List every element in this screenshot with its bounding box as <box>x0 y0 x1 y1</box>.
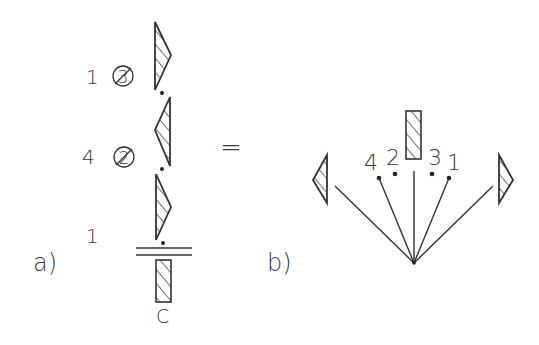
ray-fan <box>335 171 493 263</box>
prism-triangle-left <box>313 155 327 203</box>
circled-number-2: 2 <box>119 148 130 168</box>
prism-triangle-top <box>155 22 171 90</box>
point-label-4: 4 <box>364 150 378 175</box>
point-label-2: 2 <box>386 145 400 170</box>
circled-number-3: 3 <box>118 67 129 87</box>
panel-b-label: b) <box>267 249 292 277</box>
point-label-1: 1 <box>447 150 461 175</box>
circled-3-struck: 3 <box>113 66 133 87</box>
point-label-3: 3 <box>428 145 442 170</box>
hatched-block-center <box>406 111 421 159</box>
circled-2-struck: 2 <box>114 147 134 168</box>
focus-dot <box>160 91 164 95</box>
panel-b: 4 2 3 1 b) <box>267 111 513 277</box>
row1-multiplier: 1 <box>86 65 99 89</box>
panel-a: 1 3 4 2 1 C a) <box>33 22 192 327</box>
row3-multiplier: 1 <box>86 224 99 248</box>
focus-dot <box>160 167 164 171</box>
block-label-c: C <box>156 305 169 327</box>
diagram-canvas: 1 3 4 2 1 C a) = <box>0 0 539 345</box>
panel-a-label: a) <box>33 249 57 277</box>
dot-2 <box>393 172 398 177</box>
prism-triangle-bottom <box>156 174 171 240</box>
focus-dot <box>161 241 165 245</box>
equals-sign: = <box>220 132 242 162</box>
prism-triangle-middle <box>155 97 170 166</box>
dot-3 <box>430 172 435 177</box>
prism-triangle-right <box>499 155 513 203</box>
row2-multiplier: 4 <box>82 145 95 169</box>
convergence-point <box>412 261 416 265</box>
hatched-block-c <box>156 260 171 302</box>
